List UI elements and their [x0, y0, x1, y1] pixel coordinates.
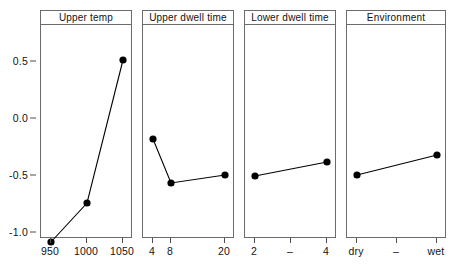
- x-tick-label: 1000: [74, 245, 98, 257]
- series-upper-dwell-time: [143, 25, 235, 238]
- y-tick-mark: [30, 118, 36, 119]
- plot-area-environment: [346, 25, 446, 238]
- data-point: [221, 171, 228, 178]
- x-tick-label: 20: [218, 245, 230, 257]
- series-upper-temp: [41, 25, 133, 238]
- strip-header-upper-temp: Upper temp: [40, 10, 132, 25]
- x-tick-mark: [254, 238, 255, 243]
- x-tick-label: 4: [149, 245, 155, 257]
- x-tick-label: 8: [167, 245, 173, 257]
- x-tick-label: wet: [428, 245, 445, 257]
- strip-label: Lower dwell time: [251, 12, 329, 23]
- series-line: [51, 60, 123, 242]
- main-effects-trellis-chart: 0.5 0.0 -0.5 -1.0 Upper temp 950 1000 10…: [0, 0, 455, 269]
- x-tick-label: –: [287, 245, 293, 257]
- y-tick-label: -1.0: [9, 226, 28, 238]
- x-tick-label: 950: [41, 245, 59, 257]
- data-point: [251, 172, 258, 179]
- x-tick-mark: [122, 238, 123, 243]
- series-lower-dwell-time: [245, 25, 337, 238]
- data-point: [149, 135, 156, 142]
- plot-area-upper-temp: [40, 25, 132, 238]
- x-tick-mark: [86, 238, 87, 243]
- x-tick-mark: [152, 238, 153, 243]
- x-tick-mark: [224, 238, 225, 243]
- y-tick-mark: [30, 61, 36, 62]
- data-point: [167, 179, 174, 186]
- y-tick-label: 0.0: [13, 112, 28, 124]
- y-tick-label: -0.5: [9, 169, 28, 181]
- x-tick-label: dry: [348, 245, 363, 257]
- x-tick-mark: [396, 238, 397, 243]
- data-point: [119, 56, 126, 63]
- strip-label: Upper dwell time: [149, 12, 227, 23]
- strip-header-lower-dwell-time: Lower dwell time: [244, 10, 336, 25]
- y-tick-mark: [30, 175, 36, 176]
- x-tick-mark: [170, 238, 171, 243]
- y-axis: 0.5 0.0 -0.5 -1.0: [0, 0, 40, 269]
- data-point: [433, 151, 440, 158]
- plot-area-upper-dwell-time: [142, 25, 234, 238]
- y-tick-mark: [30, 232, 36, 233]
- x-tick-mark: [290, 238, 291, 243]
- strip-label: Environment: [367, 12, 425, 23]
- data-point: [323, 158, 330, 165]
- series-line: [357, 155, 437, 175]
- strip-header-upper-dwell-time: Upper dwell time: [142, 10, 234, 25]
- series-line: [255, 162, 327, 176]
- x-tick-label: 2: [251, 245, 257, 257]
- x-tick-mark: [326, 238, 327, 243]
- x-tick-label: 4: [323, 245, 329, 257]
- x-tick-mark: [436, 238, 437, 243]
- y-tick-label: 0.5: [13, 55, 28, 67]
- plot-area-lower-dwell-time: [244, 25, 336, 238]
- x-tick-mark: [50, 238, 51, 243]
- strip-header-environment: Environment: [346, 10, 446, 25]
- series-line: [153, 139, 225, 183]
- x-tick-label: 1050: [110, 245, 134, 257]
- x-tick-mark: [356, 238, 357, 243]
- series-environment: [347, 25, 447, 238]
- data-point: [83, 199, 90, 206]
- data-point: [353, 171, 360, 178]
- x-tick-label: –: [393, 245, 399, 257]
- strip-label: Upper temp: [59, 12, 113, 23]
